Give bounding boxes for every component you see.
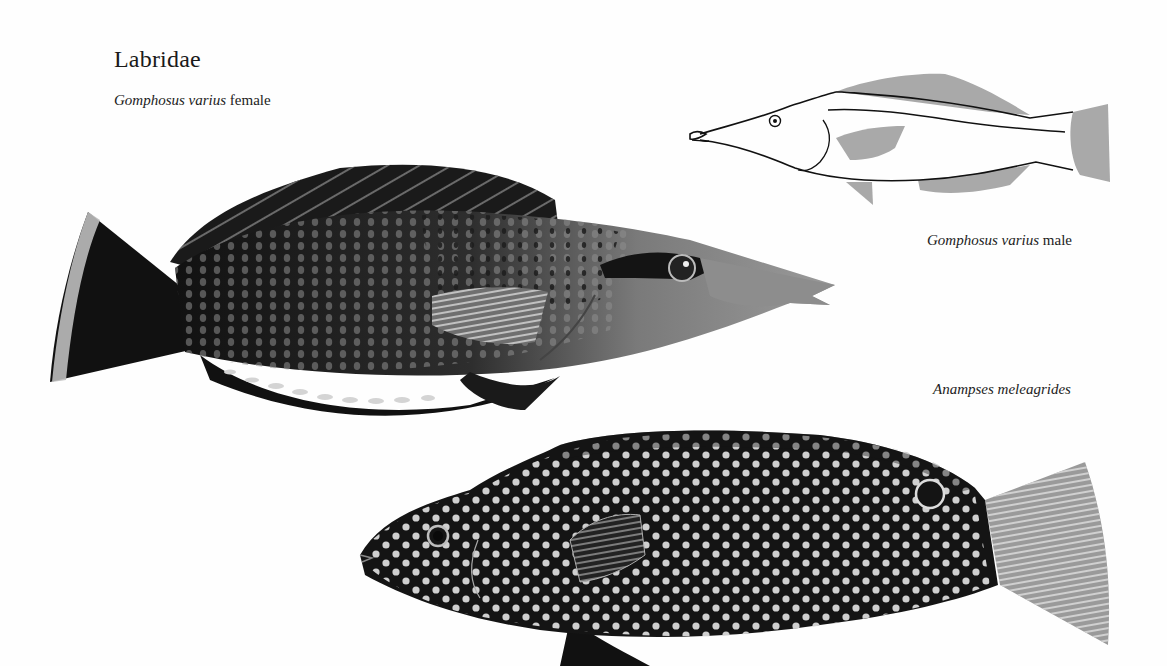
species-name: Anampses meleagrides bbox=[933, 381, 1071, 397]
family-title: Labridae bbox=[114, 46, 201, 73]
sex-qualifier: male bbox=[1043, 232, 1072, 248]
species-name: Gomphosus varius bbox=[114, 92, 226, 108]
anampses-meleagrides-illustration bbox=[360, 431, 1109, 666]
caption-anampses-meleagrides: Anampses meleagrides bbox=[933, 381, 1071, 398]
species-name: Gomphosus varius bbox=[927, 232, 1039, 248]
caption-gomphosus-female: Gomphosus varius female bbox=[114, 92, 271, 109]
gomphosus-female-illustration bbox=[50, 165, 835, 416]
illustration-plate: Labridae Gomphosus varius female Gomphos… bbox=[0, 0, 1167, 666]
sex-qualifier: female bbox=[230, 92, 271, 108]
gomphosus-male-line-drawing bbox=[690, 74, 1110, 205]
caption-gomphosus-male: Gomphosus varius male bbox=[927, 232, 1072, 249]
